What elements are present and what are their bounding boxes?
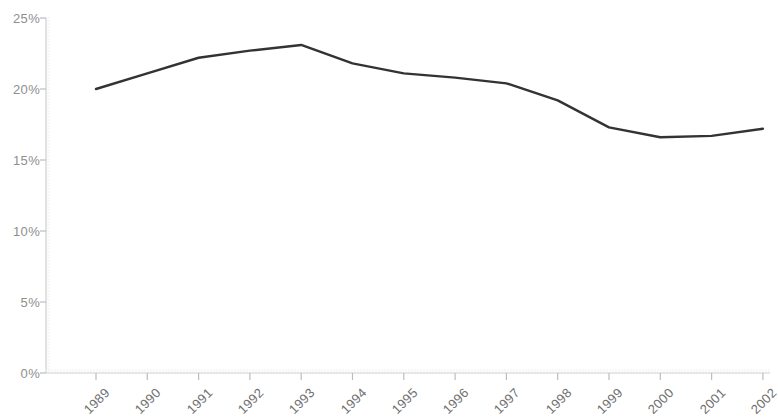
x-tick-label: 1993 [265, 385, 318, 419]
x-tick-label: 2001 [675, 385, 728, 419]
x-tick-label: 1996 [419, 385, 472, 419]
x-tick-label: 1992 [213, 385, 266, 419]
x-tick-label: 1995 [367, 385, 420, 419]
x-tick-label: 1994 [316, 385, 369, 419]
x-tick-label: 2002 [726, 385, 778, 419]
x-tick-label: 1999 [573, 385, 626, 419]
x-tick-label: 1998 [521, 385, 574, 419]
x-tick-label: 1997 [470, 385, 523, 419]
x-tick-label: 1989 [60, 385, 113, 419]
x-tick-label: 1991 [162, 385, 215, 419]
x-tick-label: 2000 [624, 385, 677, 419]
x-tick-label: 1990 [111, 385, 164, 419]
